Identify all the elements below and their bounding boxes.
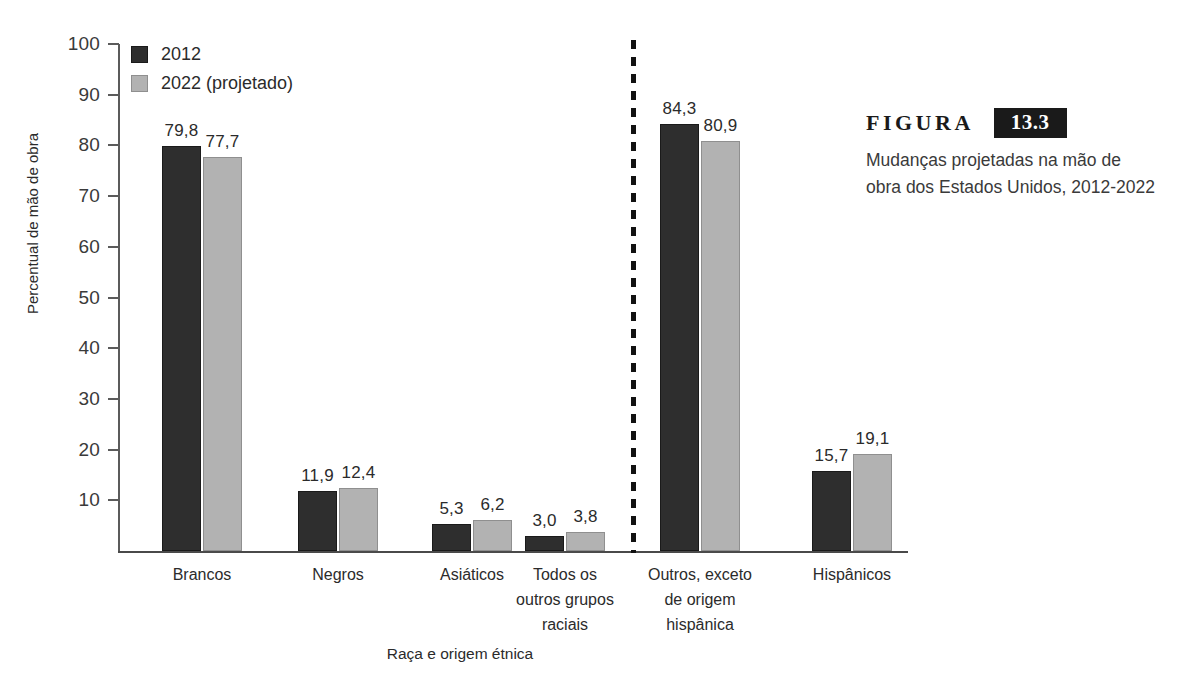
legend-label: 2012: [161, 44, 201, 65]
y-axis-tick-label: 70: [52, 185, 100, 207]
bar-value-label: 84,3: [663, 99, 697, 119]
y-axis-tick-label: 30: [52, 388, 100, 410]
legend-label: 2022 (projetado): [161, 73, 293, 94]
bar-value-label: 77,7: [206, 132, 240, 152]
y-axis-tick-label: 40: [52, 337, 100, 359]
x-axis-category-label: Negros: [263, 562, 413, 587]
caption-header: FIGURA 13.3: [866, 108, 1156, 138]
y-axis-title: Percentual de mão de obra: [24, 24, 41, 424]
bar-value-label: 12,4: [342, 463, 376, 483]
bar: [701, 141, 740, 551]
figure-root: Percentual de mão de obra 10090807060504…: [0, 0, 1178, 679]
bar: [203, 157, 242, 551]
x-axis-category-label: Brancos: [127, 562, 277, 587]
bar-value-label: 5,3: [439, 499, 463, 519]
bar: [812, 471, 851, 551]
y-axis-tick-label: 10: [52, 489, 100, 511]
bar-value-label: 3,0: [532, 511, 556, 531]
y-axis-tick-label: 20: [52, 439, 100, 461]
bar: [432, 524, 471, 551]
legend-swatch-icon: [131, 46, 148, 63]
bar-value-label: 3,8: [573, 507, 597, 527]
x-axis-category-label: Outros, exceto de origem hispânica: [625, 562, 775, 637]
bar: [660, 124, 699, 551]
bar: [853, 454, 892, 551]
legend-item-2012: 2012: [131, 40, 293, 69]
figure-caption: FIGURA 13.3 Mudanças projetadas na mão d…: [866, 108, 1156, 201]
bar: [339, 488, 378, 551]
legend-swatch-icon: [131, 75, 148, 92]
bar-value-label: 79,8: [165, 121, 199, 141]
bar-value-label: 11,9: [301, 466, 334, 486]
x-axis-line: [118, 551, 908, 553]
y-axis-tick-label: 90: [52, 84, 100, 106]
legend-item-2022: 2022 (projetado): [131, 69, 293, 98]
bar-value-label: 19,1: [856, 429, 890, 449]
bar: [473, 520, 512, 551]
bar: [525, 536, 564, 551]
y-axis-tick-label: 60: [52, 236, 100, 258]
figura-label: FIGURA: [866, 110, 974, 136]
x-axis-category-label: Todos os outros grupos raciais: [490, 562, 640, 637]
caption-text: Mudanças projetadas na mão de obra dos E…: [866, 147, 1156, 201]
y-axis-tick-label: 50: [52, 287, 100, 309]
group-divider: [631, 40, 636, 553]
bar-value-label: 80,9: [704, 116, 738, 136]
bar: [298, 491, 337, 551]
bar: [162, 146, 201, 551]
y-axis-tick-label: 100: [52, 33, 100, 55]
figure-number-badge: 13.3: [994, 108, 1067, 138]
y-axis-line: [118, 44, 120, 553]
chart-legend: 2012 2022 (projetado): [131, 40, 293, 98]
bar: [566, 532, 605, 551]
bar-value-label: 6,2: [480, 495, 504, 515]
y-axis-tick-label: 80: [52, 134, 100, 156]
bar-value-label: 15,7: [815, 446, 849, 466]
x-axis-title: Raça e origem étnica: [0, 645, 920, 663]
x-axis-category-label: Hispânicos: [777, 562, 927, 587]
